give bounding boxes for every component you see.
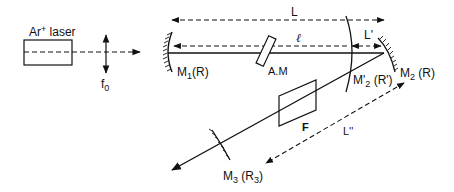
modulator-am [256, 36, 276, 67]
m3-label: M3 (R3) [223, 170, 263, 185]
m2-label-text: M [400, 66, 410, 80]
m3-label-text: M [223, 169, 233, 183]
lens-label-sub: 0 [104, 83, 109, 93]
m2prime-label-text: M' [353, 73, 365, 87]
mirror-m2prime-icon [346, 16, 352, 92]
m2prime-label-suffix: (R') [370, 73, 392, 87]
m1-label: M1(R) [177, 66, 209, 81]
distance-l-label: ℓ [296, 32, 301, 44]
m1-label-suffix: (R) [192, 65, 209, 79]
filter-label: F [302, 122, 309, 133]
m2-label: M2 (R) [400, 67, 435, 82]
m1-label-text: M [177, 65, 187, 79]
mirror-m1-icon [163, 32, 172, 72]
m3-label-close: ) [259, 169, 263, 183]
distance-Lp-label: L' [364, 29, 373, 41]
filter-f [279, 80, 316, 126]
distance-L-label: L [291, 6, 298, 18]
m2prime-label: M'2 (R') [353, 74, 393, 89]
m3-label-suffix: (R [238, 169, 254, 183]
m2-label-suffix: (R) [415, 66, 435, 80]
laser-label-suffix: laser [46, 25, 75, 39]
distance-Lpp-label: L'' [343, 126, 353, 137]
am-label: A.M [268, 66, 288, 77]
lens-label: f0 [101, 78, 109, 93]
laser-label-text: Ar [29, 25, 41, 39]
laser-label: Ar+ laser [29, 25, 76, 38]
